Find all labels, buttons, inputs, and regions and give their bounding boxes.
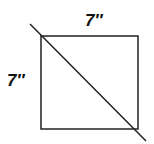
square-diagram: 7″ 7″ (0, 0, 154, 144)
diagonal-line (30, 24, 146, 141)
top-side-label: 7″ (85, 11, 103, 30)
left-side-label: 7″ (7, 71, 25, 90)
